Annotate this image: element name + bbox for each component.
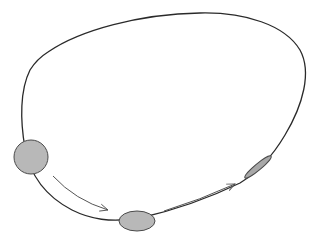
blob-ellipse xyxy=(119,211,155,231)
blob-thin-ellipse xyxy=(243,154,273,181)
arrow-2 xyxy=(164,184,235,211)
blob-circle xyxy=(14,140,48,174)
loop-curve xyxy=(22,13,306,220)
diagram-canvas xyxy=(0,0,319,248)
arrow-1 xyxy=(53,176,108,210)
